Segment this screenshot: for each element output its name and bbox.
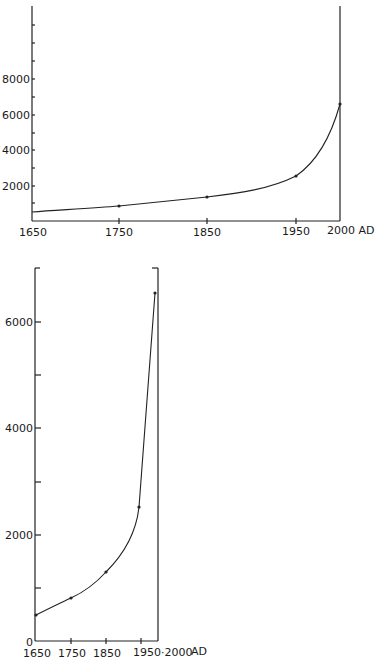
bottom-point-1950 — [137, 505, 140, 508]
top-point-1950 — [294, 174, 297, 177]
bottom-x-label-1850: 1850 — [93, 647, 121, 660]
top-x-label-1850: 1850 — [193, 226, 221, 239]
top-x-label-1750: 1750 — [105, 226, 133, 239]
bottom-y-ticks — [35, 322, 41, 588]
bottom-point-1750 — [69, 596, 72, 599]
bottom-point-1850 — [104, 570, 107, 573]
bottom-x-label-1950-2000: 1950·2000 — [133, 646, 193, 659]
bottom-x-label-1650: 1650 — [23, 647, 51, 660]
top-chart: 8000 6000 4000 2000 1650 1750 1850 1950 … — [2, 6, 375, 239]
bottom-y-label-6000: 6000 — [5, 316, 33, 329]
top-x-label-1650: 1650 — [19, 226, 47, 239]
top-y-label-6000: 6000 — [2, 109, 30, 122]
bottom-chart: 6000 4000 2000 0 1650 1750 1850 1950·200… — [5, 268, 207, 660]
top-y-label-2000: 2000 — [2, 180, 30, 193]
top-point-2000 — [338, 102, 341, 105]
top-x-label-1950: 1950 — [282, 225, 310, 238]
top-point-1750 — [117, 204, 120, 207]
bottom-y-label-2000: 2000 — [5, 529, 33, 542]
bottom-point-2000 — [153, 291, 156, 294]
bottom-x-label-1750: 1750 — [58, 647, 86, 660]
top-x-label-2000: 2000 AD — [327, 224, 375, 237]
figure: 8000 6000 4000 2000 1650 1750 1850 1950 … — [0, 0, 381, 665]
bottom-point-1650 — [34, 613, 37, 616]
bottom-population-curve — [36, 293, 155, 615]
top-y-label-8000: 8000 — [2, 73, 30, 86]
top-y-label-4000: 4000 — [2, 144, 30, 157]
top-point-1850 — [205, 195, 208, 198]
bottom-x-label-ad: AD — [191, 645, 207, 658]
bottom-y-label-4000: 4000 — [5, 422, 33, 435]
top-population-curve — [32, 104, 340, 212]
